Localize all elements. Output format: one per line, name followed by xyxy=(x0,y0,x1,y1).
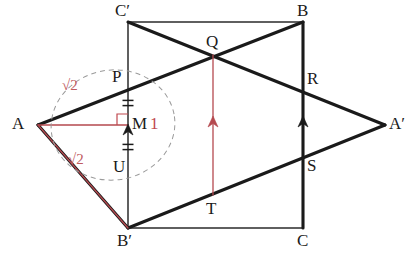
segment-A-Bprime-red xyxy=(38,125,128,228)
label-sqrt2-upper: √2 xyxy=(62,78,78,93)
vertex-label-c: C xyxy=(297,232,308,249)
vertex-label-b: B xyxy=(297,2,308,19)
edge-Bprime-Aprime xyxy=(128,125,385,228)
diagram-canvas: AA′BB′CC′PQRSTUM √2√21 xyxy=(0,0,414,260)
vertex-label-m: M xyxy=(132,115,147,132)
vertex-label-a: A xyxy=(12,115,24,132)
vertex-label-aprime: A′ xyxy=(389,115,405,132)
vertex-label-q: Q xyxy=(206,33,218,50)
vertex-label-t: T xyxy=(206,200,216,217)
vertex-label-cprime: C′ xyxy=(115,2,130,19)
right-angle-at-M xyxy=(117,114,128,125)
vertex-label-s: S xyxy=(307,157,316,174)
label-one: 1 xyxy=(150,115,159,132)
vertex-label-r: R xyxy=(307,70,318,87)
vertex-label-u: U xyxy=(113,158,125,175)
vertex-label-bprime: B′ xyxy=(117,232,132,249)
vertex-label-p: P xyxy=(112,68,121,85)
label-sqrt2-lower: √2 xyxy=(68,152,84,167)
right-angle-group xyxy=(117,114,128,125)
